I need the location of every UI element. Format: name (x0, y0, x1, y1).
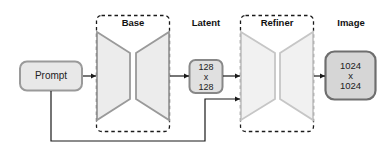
image-size: 1024 x 1024 (325, 61, 376, 91)
refiner-decoder-shape (280, 32, 313, 120)
prompt-text: Prompt (20, 71, 82, 81)
refiner-encoder-shape (241, 32, 275, 120)
latent-label: Latent (180, 17, 232, 28)
latent-size-x: x (189, 72, 223, 82)
latent-size-line3: 128 (189, 82, 223, 92)
latent-size-line1: 128 (189, 62, 223, 72)
base-decoder-shape (136, 32, 169, 120)
refiner-label: Refiner (250, 17, 304, 28)
image-size-line3: 1024 (325, 81, 376, 91)
base-encoder-shape (97, 32, 130, 120)
latent-size: 128 x 128 (189, 62, 223, 92)
image-label: Image (325, 17, 377, 28)
base-label: Base (110, 17, 156, 28)
